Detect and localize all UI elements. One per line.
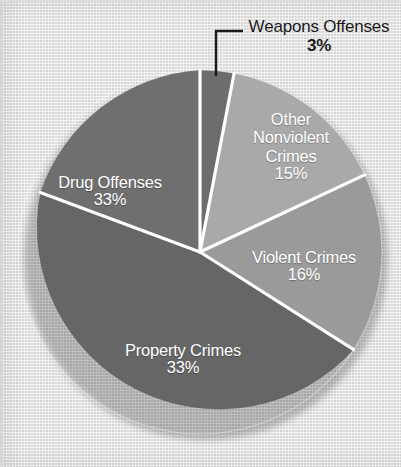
weapons-callout-leader-line bbox=[216, 31, 243, 76]
pie-chart-page: Drug Offenses 33% Property Crimes 33% Vi… bbox=[0, 0, 401, 467]
callout-label-name: Weapons Offenses bbox=[248, 18, 390, 37]
pie-chart-graphic bbox=[0, 0, 401, 467]
callout-label-weapons-offenses: Weapons Offenses 3% bbox=[248, 18, 390, 55]
callout-label-percent: 3% bbox=[248, 37, 390, 56]
